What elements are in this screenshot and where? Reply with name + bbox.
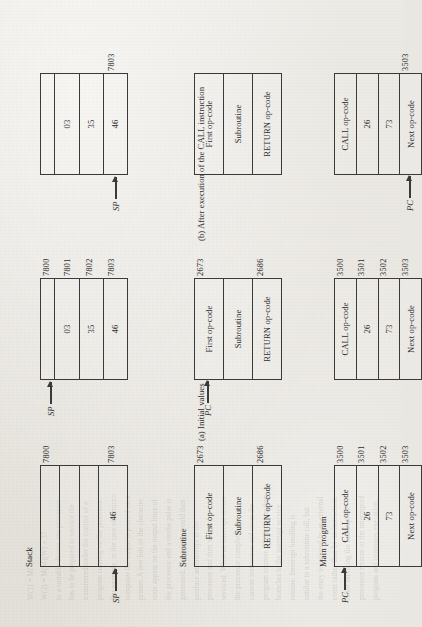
subroutine-cell: RETURN op-code — [253, 74, 281, 174]
stack-cell: 46 — [104, 279, 127, 379]
pointer-arrow-icon — [50, 382, 51, 404]
stack-cell — [41, 74, 55, 174]
subroutine-cell: Subroutine — [224, 74, 253, 174]
stack-pointer-sp: SP — [46, 382, 56, 416]
subroutine-address-label: 2673 — [196, 258, 205, 276]
stack-column-title: Stack — [24, 547, 34, 567]
figure-caption-a: (a) Initial values — [196, 383, 206, 441]
subroutine-address-label: 2673 — [196, 445, 205, 463]
stack-address-label: 7800 — [42, 445, 51, 463]
main-program-cell: 73 — [379, 466, 401, 566]
main-program-cells: CALL op-code 26 73 Next op-code — [334, 73, 422, 175]
stack-cell: 35 — [80, 74, 104, 174]
stack-cell: 46 — [99, 466, 127, 566]
subroutine-cells: First op-code Subroutine RETURN op-code — [194, 73, 282, 175]
main-program-cells: CALL op-code 26 73 Next op-code — [334, 278, 422, 380]
main-program-address-label: 3500 — [336, 258, 345, 276]
subroutine-cells: First op-code Subroutine RETURN op-code — [194, 278, 282, 380]
stack-cell: 46 — [104, 74, 127, 174]
stack-cell — [80, 466, 99, 566]
main-program-cell: Next op-code — [400, 74, 421, 174]
main-program-address-label: 3503 — [401, 258, 410, 276]
stack-cell — [60, 466, 79, 566]
stack-pointer-sp: SP — [111, 177, 121, 211]
main-program-address-label: 3502 — [379, 445, 388, 463]
stack-pointer-label: SP — [46, 406, 56, 416]
subroutine-cell: Subroutine — [224, 279, 253, 379]
stack-cell — [41, 279, 55, 379]
stack-address-label: 7801 — [63, 258, 72, 276]
stack-cell: 03 — [55, 279, 79, 379]
subroutine-address-label: 2686 — [256, 258, 265, 276]
main-program-address-label: 3502 — [379, 258, 388, 276]
pointer-arrow-icon — [115, 177, 116, 199]
main-program-cell: 26 — [357, 466, 379, 566]
subroutine-cell: RETURN op-code — [253, 279, 281, 379]
stack-address-label: 7803 — [107, 445, 116, 463]
main-program-address-label: 3503 — [401, 53, 410, 71]
stack-pointer-label: SP — [111, 593, 121, 603]
main-program-pointer-label: PC — [405, 200, 415, 211]
subroutine-cell: Subroutine — [224, 466, 253, 566]
pointer-arrow-icon — [409, 176, 410, 198]
main-program-pointer-pc: PC — [340, 568, 350, 603]
pointer-arrow-icon — [207, 381, 208, 403]
stack-cells: 03 35 46 — [40, 278, 128, 380]
main-program-address-label: 3503 — [401, 445, 410, 463]
main-program-cells: CALL op-code 26 73 Next op-code — [334, 465, 422, 567]
stack-address-label: 7802 — [85, 258, 94, 276]
main-program-cell: CALL op-code — [335, 279, 357, 379]
main-program-cell: 73 — [379, 74, 401, 174]
main-program-pointer-pc: PC — [405, 176, 415, 211]
main-program-cell: 26 — [357, 74, 379, 174]
stack-cell: 03 — [55, 74, 79, 174]
main-program-cell: Next op-code — [400, 466, 421, 566]
main-program-cell: CALL op-code — [335, 74, 357, 174]
subroutine-cell: RETURN op-code — [253, 466, 281, 566]
main-program-pointer-label: PC — [340, 592, 350, 603]
subroutine-cell: First op-code — [195, 279, 224, 379]
subroutine-cell: First op-code — [195, 466, 224, 566]
stack-pointer-label: SP — [111, 201, 121, 211]
main-program-address-label: 3501 — [357, 445, 366, 463]
subroutine-column-title: Subroutine — [178, 528, 188, 567]
stack-address-label: 7803 — [107, 258, 116, 276]
stack-cells: 46 — [40, 465, 128, 567]
main-program-cell: 73 — [379, 279, 401, 379]
pointer-arrow-icon — [115, 569, 116, 591]
pointer-arrow-icon — [344, 568, 345, 590]
main-program-cell: CALL op-code — [335, 466, 357, 566]
main-program-address-label: 3501 — [357, 258, 366, 276]
stack-cells: 03 35 46 — [40, 73, 128, 175]
subroutine-address-label: 2686 — [256, 445, 265, 463]
main-program-cell: 26 — [357, 279, 379, 379]
stack-cell: 35 — [80, 279, 104, 379]
stack-pointer-sp: SP — [111, 569, 121, 603]
stack-address-label: 7800 — [42, 258, 51, 276]
figure-caption-b: (b) After execution of the CALL instruct… — [196, 87, 206, 241]
stack-cell — [41, 466, 60, 566]
main-program-cell: Next op-code — [400, 279, 421, 379]
subroutine-cells: First op-code Subroutine RETURN op-code — [194, 465, 282, 567]
main-program-column-title: Main program — [318, 516, 328, 567]
main-program-address-label: 3500 — [336, 445, 345, 463]
stack-address-label: 7803 — [107, 53, 116, 71]
